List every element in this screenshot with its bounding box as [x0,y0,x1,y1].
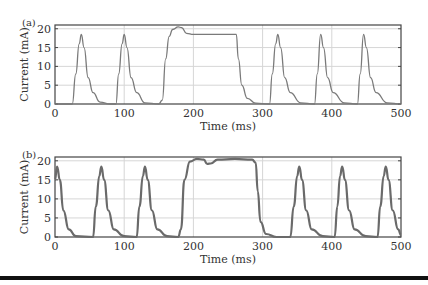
y-tick-label: 20 [37,23,51,36]
x-tick-label: 500 [391,107,412,120]
x-tick-label: 400 [321,240,342,253]
y-tick-label: 15 [37,174,51,187]
x-tick-label: 200 [183,107,204,120]
x-axis-label: Time (ms) [200,120,256,133]
panel-label: (a) [22,17,36,28]
y-tick-label: 10 [37,193,51,206]
current-series-line [55,27,401,104]
x-axis-label: Time (ms) [200,253,256,266]
y-tick-label: 5 [44,212,51,225]
x-tick-label: 200 [183,240,204,253]
plot-b: 051015200100200300400500Time (ms)Current… [18,149,412,266]
x-tick-label: 400 [321,107,342,120]
current-series-line [55,159,401,237]
x-tick-label: 500 [391,240,412,253]
bottom-rule [0,276,428,280]
x-tick-label: 300 [252,107,273,120]
y-tick-label: 5 [44,79,51,92]
x-tick-label: 100 [114,107,135,120]
plot-frame [55,25,401,104]
x-tick-label: 100 [114,240,135,253]
y-tick-label: 0 [44,98,51,111]
x-tick-label: 300 [252,240,273,253]
y-tick-label: 10 [37,60,51,73]
y-axis-label: Current (mA) [18,160,31,235]
x-tick-label: 0 [52,107,59,120]
y-tick-label: 20 [37,155,51,168]
panel-label: (b) [22,149,36,160]
y-tick-label: 15 [37,42,51,55]
y-tick-label: 0 [44,231,51,244]
chart-canvas: 051015200100200300400500Time (ms)Current… [0,0,428,285]
x-tick-label: 0 [52,240,59,253]
plot-a: 051015200100200300400500Time (ms)Current… [18,17,412,133]
y-axis-label: Current (mA) [18,27,31,102]
